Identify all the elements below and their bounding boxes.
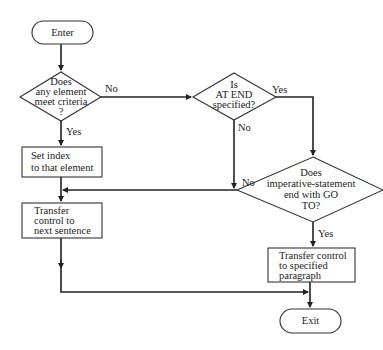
enter-label: Enter (51, 27, 74, 38)
decision-at-end-line-3: specified? (213, 99, 256, 110)
edge-at-end-yes (276, 97, 313, 155)
exit-terminal: Exit (280, 309, 341, 333)
label-criteria-no: No (105, 83, 118, 94)
decision-goto-line-3: end with GO (284, 189, 339, 200)
transfer-specified-line-3: paragraph (279, 270, 322, 281)
label-goto-no: No (242, 177, 255, 188)
set-index-box: Set index to that element (22, 147, 102, 177)
label-criteria-yes: Yes (66, 126, 81, 137)
transfer-next-box: Transfer control to next sentence (22, 203, 102, 238)
transfer-next-line-3: next sentence (34, 225, 91, 236)
decision-goto: Does imperative-statement end with GO TO… (237, 157, 383, 222)
transfer-specified-box: Transfer control to specified paragraph (268, 248, 355, 282)
decision-criteria-line-4: ? (59, 106, 64, 117)
set-index-line-1: Set index (31, 150, 71, 161)
exit-label: Exit (302, 315, 320, 326)
decision-at-end: Is AT END specified? (193, 73, 276, 120)
flowchart-canvas: Enter Does any element meet criteria ? N… (0, 0, 383, 350)
label-goto-yes: Yes (318, 228, 333, 239)
label-at-end-yes: Yes (272, 84, 287, 95)
label-at-end-no: No (238, 122, 251, 133)
decision-goto-line-2: imperative-statement (267, 178, 356, 189)
decision-goto-line-4: TO? (302, 200, 321, 211)
decision-goto-line-1: Does (300, 167, 322, 178)
enter-terminal: Enter (32, 21, 93, 44)
set-index-line-2: to that element (31, 162, 93, 173)
decision-criteria: Does any element meet criteria ? (20, 72, 101, 121)
